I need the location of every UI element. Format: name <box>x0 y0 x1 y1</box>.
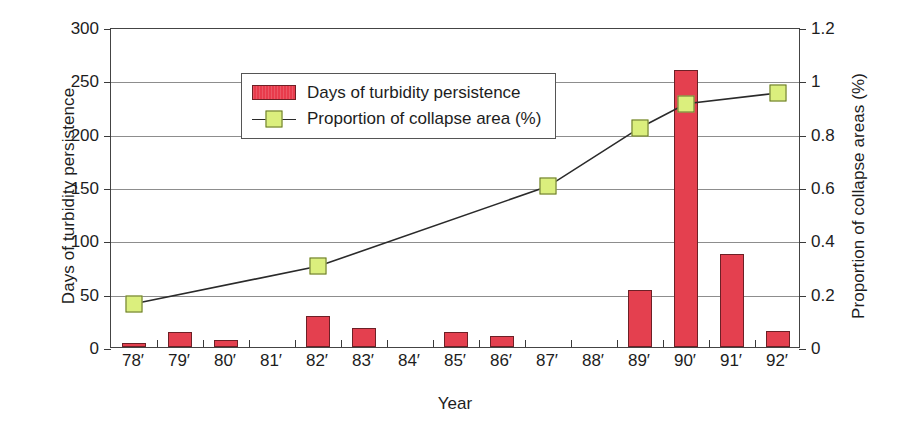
left-axis-tick-label: 300 <box>39 20 99 37</box>
right-axis-tick-label: 0.2 <box>811 287 871 304</box>
left-axis-tick-label: 200 <box>39 127 99 144</box>
right-axis-tick-label: 0.4 <box>811 233 871 250</box>
right-axis-tick-label: 1.2 <box>811 20 871 37</box>
legend-bar-swatch-icon <box>252 85 296 100</box>
x-axis-tick-label: 80′ <box>202 352 248 369</box>
x-axis-tick-label: 92′ <box>754 352 800 369</box>
x-axis-tick-label: 85′ <box>432 352 478 369</box>
line-marker <box>126 295 143 312</box>
plot-area: 050100150200250300 00.20.40.60.811.2 Day… <box>110 28 800 348</box>
left-axis-tick <box>104 349 111 350</box>
right-axis-tick-label: 0 <box>811 340 871 357</box>
x-axis-tick-label: 90′ <box>662 352 708 369</box>
line-marker <box>310 258 327 275</box>
x-axis-tick-label: 78′ <box>110 352 156 369</box>
x-axis-tick-label: 89′ <box>616 352 662 369</box>
x-axis-tick-label: 86′ <box>478 352 524 369</box>
x-axis-tick-label: 88′ <box>570 352 616 369</box>
right-axis-tick <box>799 349 806 350</box>
left-axis-tick <box>104 136 111 137</box>
x-axis-tick-label: 87′ <box>524 352 570 369</box>
left-axis-tick-label: 100 <box>39 233 99 250</box>
line-marker <box>632 119 649 136</box>
x-axis-tick-label: 82′ <box>294 352 340 369</box>
x-axis-tick-label: 81′ <box>248 352 294 369</box>
left-axis-tick <box>104 242 111 243</box>
x-axis-tick-label: 91′ <box>708 352 754 369</box>
chart-container: Days of turbidity persistence Proportion… <box>0 0 918 425</box>
left-axis-tick-label: 0 <box>39 340 99 357</box>
left-axis-tick-label: 250 <box>39 73 99 90</box>
right-axis-tick-label: 0.8 <box>811 127 871 144</box>
legend-item: Days of turbidity persistence <box>252 80 541 105</box>
right-axis-tick-label: 0.6 <box>811 180 871 197</box>
legend-item-label: Proportion of collapse area (%) <box>307 109 541 129</box>
left-axis-tick-label: 150 <box>39 180 99 197</box>
line-marker <box>770 85 787 102</box>
line-marker <box>540 178 557 195</box>
line-marker <box>678 95 695 112</box>
right-axis-tick-label: 1 <box>811 73 871 90</box>
x-axis-title: Year <box>110 394 800 414</box>
left-axis-tick <box>104 296 111 297</box>
left-axis-tick <box>104 82 111 83</box>
left-axis-tick-label: 50 <box>39 287 99 304</box>
legend-line-marker-swatch-icon <box>252 111 296 126</box>
legend: Days of turbidity persistenceProportion … <box>241 73 556 139</box>
legend-item: Proportion of collapse area (%) <box>252 106 541 131</box>
x-axis-tick-label: 83′ <box>340 352 386 369</box>
left-axis-tick <box>104 29 111 30</box>
x-axis-tick-label: 79′ <box>156 352 202 369</box>
legend-item-label: Days of turbidity persistence <box>307 83 521 103</box>
x-axis-tick-label: 84′ <box>386 352 432 369</box>
left-axis-tick <box>104 189 111 190</box>
